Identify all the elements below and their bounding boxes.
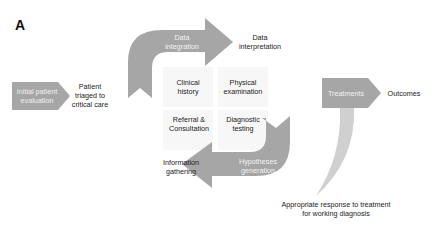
patient-triaged-line2: triaged to: [70, 91, 110, 100]
information-gathering-line2: gathering: [156, 167, 206, 176]
appropriate-response-line1: Appropriate response to treatment: [276, 200, 396, 209]
data-interpretation-line1: Data: [232, 33, 288, 42]
diagnostic-process-diagram: A Initial patient evaluation Data integr…: [0, 0, 432, 229]
physical-examination-line2: examination: [218, 87, 268, 96]
clinical-history-label: Clinical history: [166, 78, 210, 96]
diagnostic-testing-label: Diagnostic testing: [218, 115, 268, 133]
clinical-history-line2: history: [166, 87, 210, 96]
treatments-label: Treatments: [324, 89, 368, 98]
diagnostic-testing-line2: testing: [218, 124, 268, 133]
appropriate-response-line2: for working diagnosis: [276, 209, 396, 218]
information-gathering-label: Information gathering: [156, 158, 206, 176]
patient-triaged-line3: critical care: [70, 100, 110, 109]
data-interpretation-label: Data interpretation: [232, 33, 288, 51]
initial-evaluation-label: Initial patient evaluation: [14, 87, 60, 105]
data-interpretation-line2: interpretation: [232, 42, 288, 51]
outcomes-label: Outcomes: [384, 89, 424, 98]
diagnostic-testing-line1: Diagnostic: [218, 115, 268, 124]
initial-evaluation-line1: Initial patient: [14, 87, 60, 96]
hypotheses-generation-label: Hypotheses generation: [230, 157, 286, 175]
feedback-curve: [316, 108, 354, 196]
clinical-history-line1: Clinical: [166, 78, 210, 87]
hypotheses-line2: generation: [230, 166, 286, 175]
patient-triaged-line1: Patient: [70, 82, 110, 91]
data-integration-line1: Data: [160, 33, 204, 42]
initial-evaluation-line2: evaluation: [14, 96, 60, 105]
referral-line2: Consultation: [164, 124, 214, 133]
physical-examination-line1: Physical: [218, 78, 268, 87]
diagram-shapes: [0, 0, 432, 229]
referral-line1: Referral &: [164, 115, 214, 124]
patient-triaged-label: Patient triaged to critical care: [70, 82, 110, 109]
appropriate-response-label: Appropriate response to treatment for wo…: [276, 200, 396, 218]
referral-consultation-label: Referral & Consultation: [164, 115, 214, 133]
physical-examination-label: Physical examination: [218, 78, 268, 96]
data-integration-label: Data integration: [160, 33, 204, 51]
hypotheses-line1: Hypotheses: [230, 157, 286, 166]
information-gathering-line1: Information: [156, 158, 206, 167]
data-integration-line2: integration: [160, 42, 204, 51]
